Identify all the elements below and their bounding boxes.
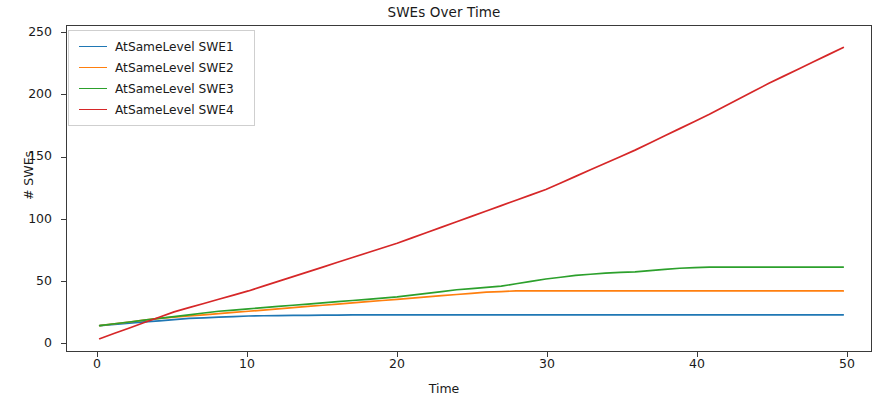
legend-color-swatch [79, 46, 107, 47]
legend-color-swatch [79, 67, 107, 68]
legend-item[interactable]: AtSameLevel SWE4 [75, 99, 248, 120]
legend-label: AtSameLevel SWE4 [115, 103, 234, 117]
legend-color-swatch [79, 109, 107, 110]
x-tick-label: 50 [827, 358, 867, 370]
series-line [100, 315, 844, 326]
legend-item[interactable]: AtSameLevel SWE2 [75, 57, 248, 78]
legend-item[interactable]: AtSameLevel SWE1 [75, 36, 248, 57]
legend-label: AtSameLevel SWE1 [115, 40, 234, 54]
legend-item[interactable]: AtSameLevel SWE3 [75, 78, 248, 99]
y-tick-label: 200 [8, 88, 52, 100]
x-tick-label: 10 [227, 358, 267, 370]
legend-label: AtSameLevel SWE3 [115, 82, 234, 96]
legend: AtSameLevel SWE1 AtSameLevel SWE2 AtSame… [68, 30, 255, 126]
y-axis-label: # SWEs [21, 131, 36, 221]
chart-figure: SWEs Over Time 250 200 150 100 50 0 0 10… [0, 0, 888, 405]
legend-color-swatch [79, 88, 107, 89]
y-tick-label: 250 [8, 26, 52, 38]
series-line [100, 291, 844, 326]
x-tick-label: 0 [77, 358, 117, 370]
y-tick-label: 50 [8, 275, 52, 287]
x-tick-label: 40 [677, 358, 717, 370]
page-title: SWEs Over Time [0, 4, 888, 20]
x-axis-label: Time [0, 381, 888, 396]
y-tick-label: 0 [8, 337, 52, 349]
legend-label: AtSameLevel SWE2 [115, 61, 234, 75]
x-tick-label: 30 [527, 358, 567, 370]
x-tick-label: 20 [377, 358, 417, 370]
